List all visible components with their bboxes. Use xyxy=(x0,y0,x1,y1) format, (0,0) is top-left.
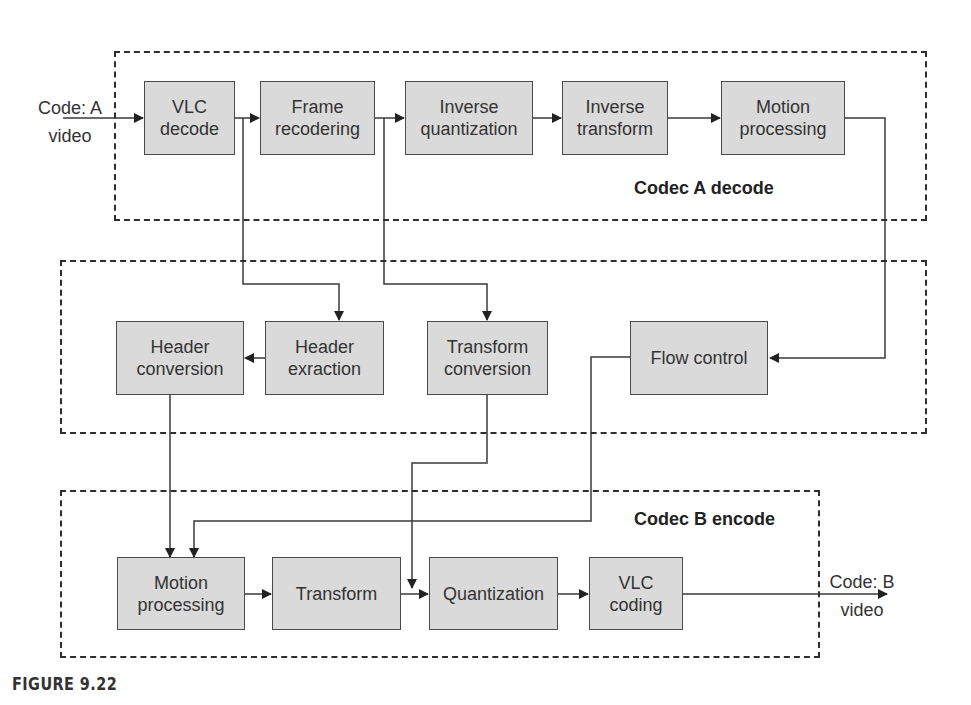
block-header-conversion: Header conversion xyxy=(116,321,244,395)
block-line2: exraction xyxy=(288,358,361,380)
output-label-code-b: Code: B video xyxy=(822,571,902,621)
block-line1: Inverse xyxy=(585,96,644,118)
block-line1: Transform xyxy=(296,583,377,605)
block-line1: Transform xyxy=(447,336,528,358)
input-label-line2: video xyxy=(30,125,110,147)
block-line2: quantization xyxy=(420,118,517,140)
block-line1: VLC xyxy=(618,572,653,594)
input-label-line1: Code: A xyxy=(30,97,110,119)
block-vlc-decode: VLC decode xyxy=(144,81,235,155)
block-line1: Quantization xyxy=(443,583,544,605)
block-header-exraction: Header exraction xyxy=(265,321,384,395)
block-line1: Motion xyxy=(154,572,208,594)
block-line2: conversion xyxy=(444,358,531,380)
block-line1: Inverse xyxy=(439,96,498,118)
block-transform: Transform xyxy=(272,557,401,630)
block-transform-conversion: Transform conversion xyxy=(427,321,548,395)
block-line2: processing xyxy=(137,594,224,616)
block-quantization: Quantization xyxy=(429,557,558,630)
block-line2: recodering xyxy=(275,118,360,140)
region-label-codec-b-encode: Codec B encode xyxy=(634,509,775,530)
block-flow-control: Flow control xyxy=(630,321,768,395)
block-line2: decode xyxy=(160,118,219,140)
output-label-line1: Code: B xyxy=(822,571,902,593)
block-line2: conversion xyxy=(136,358,223,380)
block-inverse-transform: Inverse transform xyxy=(562,81,668,155)
block-frame-recodering: Frame recodering xyxy=(260,81,375,155)
block-line2: processing xyxy=(739,118,826,140)
block-motion-processing-b: Motion processing xyxy=(117,557,245,630)
block-line1: Header xyxy=(150,336,209,358)
block-line1: Motion xyxy=(756,96,810,118)
block-line1: VLC xyxy=(172,96,207,118)
block-line1: Frame xyxy=(291,96,343,118)
output-label-line2: video xyxy=(822,599,902,621)
block-line1: Flow control xyxy=(650,347,747,369)
region-label-codec-a-decode: Codec A decode xyxy=(634,178,774,199)
block-motion-processing-a: Motion processing xyxy=(721,81,845,155)
block-line2: transform xyxy=(577,118,653,140)
block-inverse-quantization: Inverse quantization xyxy=(405,81,533,155)
figure-caption: FIGURE 9.22 xyxy=(12,674,117,694)
block-line2: coding xyxy=(609,594,662,616)
input-label-code-a: Code: A video xyxy=(30,97,110,147)
block-line1: Header xyxy=(295,336,354,358)
block-vlc-coding: VLC coding xyxy=(589,557,683,630)
